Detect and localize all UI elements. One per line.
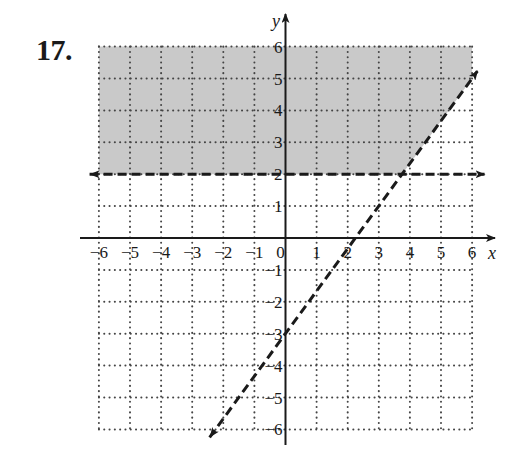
x-tick-label: −6 (90, 243, 108, 262)
y-tick-label: 4 (274, 101, 283, 120)
x-tick-label: −1 (245, 243, 263, 262)
y-tick-label: 3 (274, 133, 283, 152)
y-tick-label: −4 (264, 357, 283, 376)
arrowhead-icon (206, 427, 218, 440)
x-tick-label: 6 (468, 243, 477, 262)
x-tick-label: −5 (121, 243, 139, 262)
x-tick-label: −3 (183, 243, 201, 262)
y-tick-label: 6 (274, 38, 283, 57)
y-tick-label: 5 (274, 70, 283, 89)
x-tick-label: 4 (406, 243, 415, 262)
x-tick-label: 1 (312, 243, 321, 262)
y-tick-label: −6 (264, 420, 282, 439)
y-tick-label: −1 (264, 261, 282, 280)
coordinate-graph: −6−5−4−3−2−10123456−6−5−4−3−2−1123456xy (0, 0, 521, 458)
y-tick-label: −3 (264, 325, 282, 344)
x-tick-label: 0 (276, 243, 285, 262)
x-tick-label: −4 (152, 243, 171, 262)
x-tick-label: −2 (214, 243, 232, 262)
y-tick-label: −5 (264, 389, 282, 408)
x-tick-label: 3 (375, 243, 384, 262)
x-axis-label: x (487, 243, 496, 263)
y-axis-label: y (270, 11, 280, 31)
x-tick-label: 5 (437, 243, 446, 262)
y-tick-label: 2 (274, 165, 283, 184)
x-tick-label: 2 (343, 243, 352, 262)
y-tick-label: 1 (274, 197, 283, 216)
y-tick-label: −2 (264, 293, 282, 312)
